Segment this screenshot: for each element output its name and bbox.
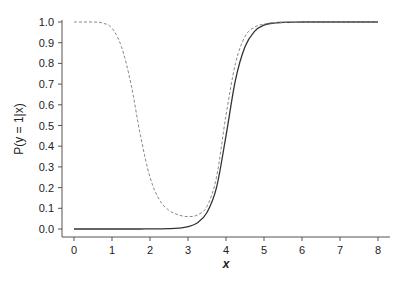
y-tick-label: 0.3	[39, 161, 54, 173]
x-tick-label: 4	[223, 244, 229, 256]
y-tick-label: 0.4	[39, 140, 54, 152]
x-tick-label: 2	[147, 244, 153, 256]
x-axis-title: x	[222, 257, 231, 271]
y-tick-label: 0.7	[39, 78, 54, 90]
x-tick-label: 8	[375, 244, 381, 256]
x-tick-label: 0	[71, 244, 77, 256]
y-axis-title: P(y = 1|x)	[12, 103, 26, 154]
solid-curve	[74, 22, 378, 229]
y-tick-label: 0.2	[39, 182, 54, 194]
y-tick-label: 1.0	[39, 16, 54, 28]
x-axis: 012345678	[62, 237, 390, 256]
dashed-curve	[74, 22, 378, 217]
y-axis: 0.00.10.20.30.40.50.60.70.80.91.0	[39, 16, 62, 237]
y-tick-label: 0.9	[39, 37, 54, 49]
probability-chart: 0.00.10.20.30.40.50.60.70.80.91.0 012345…	[0, 0, 408, 287]
plot-lines	[74, 22, 378, 229]
y-tick-label: 0.5	[39, 120, 54, 132]
x-tick-label: 5	[261, 244, 267, 256]
y-tick-label: 0.6	[39, 99, 54, 111]
x-tick-label: 6	[299, 244, 305, 256]
x-tick-label: 1	[109, 244, 115, 256]
x-tick-label: 3	[185, 244, 191, 256]
y-tick-label: 0.0	[39, 223, 54, 235]
y-tick-label: 0.1	[39, 202, 54, 214]
x-tick-label: 7	[337, 244, 343, 256]
y-tick-label: 0.8	[39, 57, 54, 69]
